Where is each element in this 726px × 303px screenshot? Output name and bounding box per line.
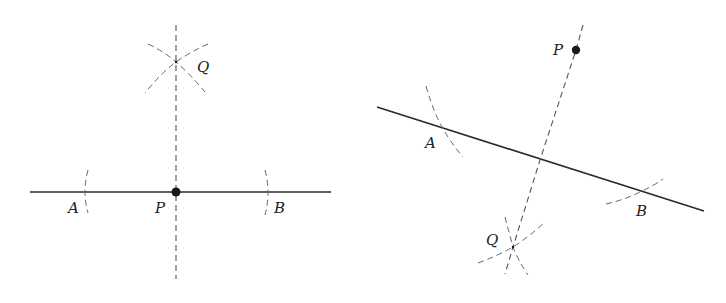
label-a: A [423,134,436,152]
figure-right: P A B Q [377,25,704,275]
figure-left: A P B Q [30,25,331,279]
label-q: Q [486,231,498,249]
point-q [175,61,177,63]
point-p [172,188,181,197]
label-b: B [635,202,647,220]
perpendicular-line [505,25,583,274]
point-q [512,246,514,248]
label-q: Q [197,58,209,76]
label-p: P [552,41,564,59]
label-p: P [154,199,166,217]
geometry-diagram: A P B Q P A B Q [0,0,726,303]
arc-q-1 [505,217,528,275]
label-a: A [66,199,79,217]
label-b: B [273,199,285,217]
point-p [572,46,580,54]
